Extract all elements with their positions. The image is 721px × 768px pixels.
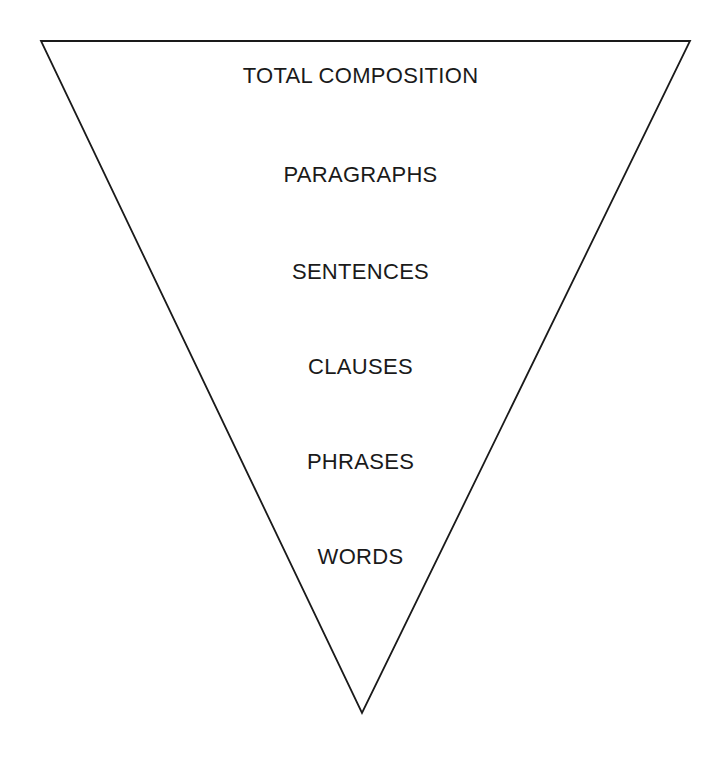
level-total-composition: TOTAL COMPOSITION [0, 64, 721, 88]
inverted-triangle-shape [0, 0, 721, 768]
inverted-triangle-diagram: TOTAL COMPOSITION PARAGRAPHS SENTENCES C… [0, 0, 721, 768]
level-words: WORDS [0, 545, 721, 569]
level-sentences: SENTENCES [0, 260, 721, 284]
level-phrases: PHRASES [0, 450, 721, 474]
level-paragraphs: PARAGRAPHS [0, 163, 721, 187]
level-clauses: CLAUSES [0, 355, 721, 379]
